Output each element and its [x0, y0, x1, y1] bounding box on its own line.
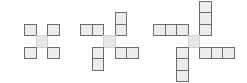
arm-square: [176, 70, 189, 83]
arm-square: [199, 24, 212, 37]
figure-3: [0, 0, 247, 83]
arm-square: [222, 47, 235, 60]
